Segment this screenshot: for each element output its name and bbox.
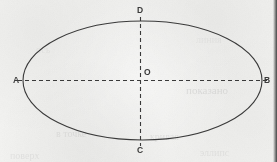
point-label-b: B [264,76,270,85]
point-label-o: O [144,68,151,77]
ellipse-diagram [0,0,277,162]
ellipse-outline [23,21,262,140]
figure-canvas: показано в точке кривая поверх эллипс ос… [0,0,277,162]
point-label-c: C [137,146,143,155]
point-label-a: A [13,76,19,85]
point-label-d: D [137,6,143,15]
